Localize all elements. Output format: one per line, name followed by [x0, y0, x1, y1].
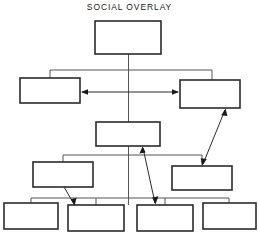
arrow-row2right-row4right[interactable]	[201, 109, 228, 166]
arrow-head-up	[221, 109, 227, 116]
connector-row5-bracket	[31, 198, 229, 203]
arrow-row2-pair[interactable]	[81, 89, 179, 95]
node-row5-3[interactable]	[137, 205, 193, 231]
node-row4-left[interactable]	[33, 162, 93, 187]
node-row5-2[interactable]	[68, 205, 124, 231]
node-row4-right[interactable]	[172, 166, 232, 190]
node-row5-1[interactable]	[4, 203, 58, 229]
arrow-head-right	[172, 89, 179, 95]
social-overlay-diagram: SOCIAL OVERLAY	[0, 0, 259, 234]
node-row2-left[interactable]	[20, 78, 80, 103]
arrow-head-left	[81, 89, 88, 95]
node-row3-mid[interactable]	[96, 122, 160, 146]
node-row2-right[interactable]	[180, 80, 240, 108]
arrow-head-up	[139, 147, 145, 154]
diagram-canvas	[0, 0, 259, 234]
arrow-head-down	[152, 196, 158, 204]
arrow-row4left-row5-2[interactable]	[64, 187, 77, 205]
node-root[interactable]	[95, 21, 161, 54]
node-row5-4[interactable]	[203, 203, 256, 229]
